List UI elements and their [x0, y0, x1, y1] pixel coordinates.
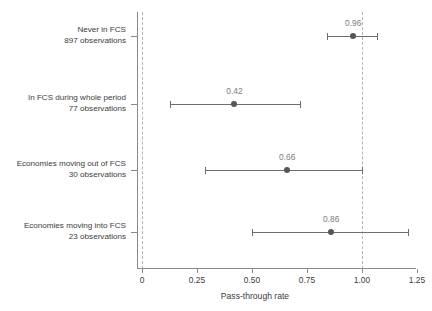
reference-line-one	[362, 12, 363, 269]
data-point-1	[231, 101, 237, 107]
x-tick-2	[252, 269, 253, 273]
category-name-1: In FCS during whole period	[28, 93, 126, 102]
reference-line-zero	[142, 12, 143, 269]
x-tick-0	[142, 269, 143, 273]
category-observations-3: 23 observations	[24, 232, 126, 243]
category-name-2: Economies moving out of FCS	[17, 159, 126, 168]
category-tick-3	[131, 232, 137, 233]
dot-and-whisker-chart: Never in FCS 897 observations In FCS dur…	[0, 0, 432, 311]
x-tick-label-1: 0.25	[189, 275, 205, 285]
error-bar-cap-2-high	[362, 167, 363, 174]
category-observations-2: 30 observations	[17, 170, 126, 181]
category-tick-1	[131, 104, 137, 105]
error-bar-cap-1-high	[300, 101, 301, 108]
value-label-0: 0.96	[345, 18, 361, 28]
category-label-0: Never in FCS 897 observations	[64, 25, 126, 46]
error-bar-cap-3-high	[408, 229, 409, 236]
x-tick-label-4: 1.00	[354, 275, 370, 285]
error-bar-cap-1-low	[170, 101, 171, 108]
x-tick-1	[197, 269, 198, 273]
x-axis-spine	[137, 268, 416, 269]
category-tick-0	[131, 36, 137, 37]
x-tick-label-0: 0	[140, 275, 145, 285]
category-label-3: Economies moving into FCS 23 observation…	[24, 221, 126, 242]
x-tick-label-3: 0.75	[299, 275, 315, 285]
x-tick-5	[417, 269, 418, 273]
category-name-0: Never in FCS	[77, 25, 126, 34]
value-label-1: 0.42	[226, 86, 242, 96]
data-point-2	[284, 167, 290, 173]
x-tick-label-5: 1.25	[409, 275, 425, 285]
error-bar-cap-3-low	[252, 229, 253, 236]
category-observations-1: 77 observations	[28, 104, 126, 115]
value-label-2: 0.66	[279, 152, 295, 162]
x-tick-label-2: 0.50	[244, 275, 260, 285]
category-observations-0: 897 observations	[64, 36, 126, 47]
x-tick-3	[307, 269, 308, 273]
category-label-1: In FCS during whole period 77 observatio…	[28, 93, 126, 114]
error-bar-cap-0-low	[327, 33, 328, 40]
category-label-2: Economies moving out of FCS 30 observati…	[17, 159, 126, 180]
value-label-3: 0.86	[323, 214, 339, 224]
data-point-0	[350, 33, 356, 39]
category-tick-2	[131, 170, 137, 171]
y-axis-spine	[137, 12, 138, 269]
x-axis-title: Pass-through rate	[0, 291, 432, 301]
error-bar-cap-2-low	[205, 167, 206, 174]
category-name-3: Economies moving into FCS	[24, 221, 126, 230]
data-point-3	[328, 229, 334, 235]
error-bar-cap-0-high	[377, 33, 378, 40]
x-tick-4	[362, 269, 363, 273]
